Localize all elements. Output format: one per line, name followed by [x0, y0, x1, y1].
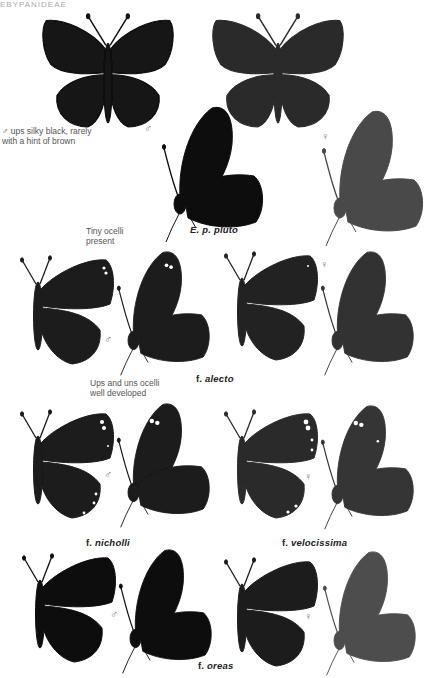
nicholli-note-line-1: Ups and uns ocelli: [90, 378, 190, 388]
butterfly-alecto-female-underside: [310, 248, 420, 378]
nicholli-note: Ups and uns ocelli well developed: [90, 378, 190, 398]
alecto-note-line-2: present: [86, 236, 176, 246]
caption-oreas: f. oreas: [198, 660, 233, 671]
male-note: ♂ ups silky black, rarely with a hint of…: [2, 126, 112, 146]
butterfly-female-underside: [310, 108, 428, 248]
butterfly-alecto-male-upperside: [18, 254, 118, 366]
caption-pluto: E. p. pluto: [190, 224, 238, 235]
butterfly-male-underside: [150, 104, 270, 244]
oreas-female-symbol: ♀: [304, 610, 312, 622]
butterfly-alecto-male-underside: [106, 248, 216, 378]
butterfly-nicholli-male-upperside: [18, 408, 118, 520]
alecto-note-line-1: Tiny ocelli: [86, 226, 176, 236]
butterfly-oreas-male-underside: [108, 546, 218, 676]
butterfly-alecto-female-upperside: [222, 250, 322, 362]
nicholli-note-line-2: well developed: [90, 388, 190, 398]
caption-alecto: f. alecto: [196, 373, 234, 384]
butterfly-oreas-female-underside: [312, 548, 422, 678]
butterfly-velocissima-female-underside: [310, 402, 420, 532]
butterfly-velocissima-female-upperside: [222, 408, 322, 520]
butterfly-nicholli-male-underside: [106, 400, 216, 530]
male-note-line-1: ♂ ups silky black, rarely: [2, 126, 112, 136]
male-note-line-2: with a hint of brown: [2, 136, 112, 146]
butterfly-oreas-male-upperside: [20, 552, 120, 664]
page-header: EBYPANIDEAE: [0, 0, 67, 9]
alecto-note: Tiny ocelli present: [86, 226, 176, 246]
caption-velocissima: f. velocissima: [282, 537, 347, 548]
